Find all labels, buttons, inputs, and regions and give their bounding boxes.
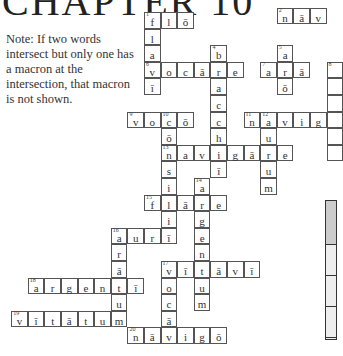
crossword-cell[interactable]: e [78,278,95,295]
crossword-cell[interactable]: 14a [194,178,211,195]
crossword-cell[interactable] [327,128,343,145]
crossword-cell[interactable]: 12a [260,112,277,129]
crossword-cell[interactable]: ā [61,311,78,328]
crossword-cell[interactable]: 11n [244,112,261,129]
crossword-cell[interactable]: g [194,327,211,344]
crossword-cell[interactable]: ī [144,78,161,95]
crossword-cell[interactable]: 19v [11,311,28,328]
crossword-cell[interactable]: u [127,228,144,245]
crossword-cell[interactable] [327,78,343,95]
crossword-cell[interactable]: ī [28,311,45,328]
crossword-cell[interactable]: ī [127,278,144,295]
crossword-cell[interactable]: 7a [260,62,277,79]
crossword-cell[interactable]: 13n [161,145,178,162]
crossword-cell[interactable]: r [194,195,211,212]
crossword-cell[interactable]: 16a [111,228,128,245]
crossword-cell[interactable]: m [111,311,128,328]
crossword-cell[interactable]: r [44,278,61,295]
crossword-cell[interactable]: 10c [161,112,178,129]
crossword-cell[interactable]: ā [194,62,211,79]
crossword-cell[interactable] [327,145,343,162]
crossword-cell[interactable]: ī [210,161,227,178]
crossword-cell[interactable]: m [260,178,277,195]
crossword-cell[interactable] [327,95,343,112]
crossword-cell[interactable]: g [61,278,78,295]
crossword-cell[interactable]: ā [177,195,194,212]
crossword-cell[interactable]: ā [210,261,227,278]
crossword-cell[interactable]: i [161,211,178,228]
crossword-cell[interactable] [327,112,343,129]
crossword-cell[interactable]: 17v [161,261,178,278]
crossword-cell[interactable]: v [161,327,178,344]
crossword-cell[interactable]: ā [293,8,310,25]
crossword-cell[interactable]: u [260,161,277,178]
crossword-cell[interactable]: m [194,294,211,311]
crossword-cell[interactable]: e [277,145,294,162]
crossword-cell[interactable]: ī [244,261,261,278]
crossword-cell[interactable]: v [310,8,327,25]
crossword-cell[interactable]: e [210,195,227,212]
crossword-cell[interactable]: 4b [210,45,227,62]
crossword-cell[interactable]: l [161,12,178,29]
crossword-cell[interactable]: o [161,62,178,79]
crossword-cell[interactable]: v [277,112,294,129]
crossword-cell[interactable]: 6v [144,62,161,79]
crossword-cell[interactable]: 5a [277,45,294,62]
crossword-cell[interactable]: r [260,145,277,162]
crossword-cell[interactable]: 20n [127,327,144,344]
crossword-cell[interactable]: v [227,261,244,278]
crossword-cell[interactable]: ā [244,145,261,162]
crossword-cell[interactable]: ō [277,78,294,95]
crossword-cell[interactable]: t [78,311,95,328]
crossword-cell[interactable]: h [210,128,227,145]
crossword-cell[interactable]: ī [177,261,194,278]
crossword-cell[interactable]: r [111,244,128,261]
crossword-cell[interactable]: ā [111,261,128,278]
crossword-cell[interactable]: r [277,62,294,79]
crossword-cell[interactable]: t [194,261,211,278]
crossword-cell[interactable]: 8 [327,62,343,79]
crossword-cell[interactable]: g [227,145,244,162]
crossword-cell[interactable]: g [194,211,211,228]
crossword-cell[interactable]: r [144,228,161,245]
crossword-cell[interactable]: u [94,311,111,328]
crossword-cell[interactable]: ā [293,62,310,79]
crossword-cell[interactable]: u [194,278,211,295]
crossword-cell[interactable]: i [293,112,310,129]
crossword-cell[interactable]: u [111,294,128,311]
crossword-cell[interactable]: 1f [144,12,161,29]
crossword-cell[interactable]: c [177,62,194,79]
crossword-cell[interactable]: ā [161,311,178,328]
crossword-cell[interactable]: l [144,29,161,46]
crossword-cell[interactable]: a [210,78,227,95]
crossword-cell[interactable]: n [94,278,111,295]
crossword-cell[interactable]: r [210,62,227,79]
crossword-cell[interactable]: e [194,228,211,245]
crossword-cell[interactable]: ī [161,228,178,245]
crossword-cell[interactable]: c [161,294,178,311]
crossword-cell[interactable]: i [177,327,194,344]
crossword-cell[interactable]: ō [210,327,227,344]
crossword-cell[interactable]: t [44,311,61,328]
crossword-cell[interactable]: s [161,161,178,178]
crossword-cell[interactable]: ō [177,112,194,129]
crossword-cell[interactable]: 15f [144,195,161,212]
crossword-cell[interactable]: l [161,195,178,212]
crossword-cell[interactable]: 9v [127,112,144,129]
crossword-cell[interactable]: c [210,95,227,112]
crossword-cell[interactable]: 18a [28,278,45,295]
crossword-cell[interactable]: u [260,128,277,145]
crossword-cell[interactable]: ō [177,12,194,29]
crossword-cell[interactable]: i [161,178,178,195]
crossword-cell[interactable]: o [161,278,178,295]
crossword-cell[interactable]: a [177,145,194,162]
crossword-cell[interactable]: c [210,112,227,129]
crossword-cell[interactable]: n [194,244,211,261]
crossword-cell[interactable]: o [144,112,161,129]
crossword-cell[interactable]: 2n [277,8,294,25]
crossword-cell[interactable]: ā [144,327,161,344]
crossword-cell[interactable]: i [210,145,227,162]
crossword-cell[interactable]: v [194,145,211,162]
crossword-cell[interactable]: g [310,112,327,129]
crossword-cell[interactable]: t [111,278,128,295]
